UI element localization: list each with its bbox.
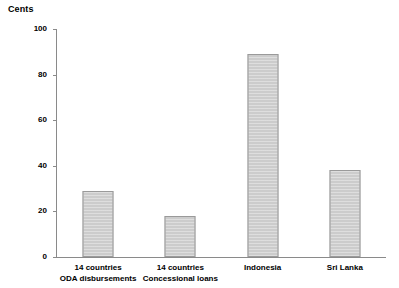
y-tick-0: 0 [53,257,57,258]
category-label-2-line1: Indonesia [244,263,281,272]
category-label-1-line2: Concessional loans [139,273,221,284]
category-label-3-line1: Sri Lanka [327,263,363,272]
bar-slot-1 [139,29,221,257]
category-label-0-line2: ODA disbursements [57,273,139,284]
bar-2[interactable] [247,54,278,257]
y-tick-label-60: 60 [38,115,47,124]
category-label-1-line1: 14 countries [157,263,204,272]
bar-chart: Cents 0 20 40 60 80 100 [0,0,399,288]
y-tick-label-0: 0 [43,252,47,261]
y-tick-label-40: 40 [38,161,47,170]
y-tick-label-20: 20 [38,206,47,215]
x-axis-line [57,257,386,258]
category-label-1: 14 countries Concessional loans [139,262,221,284]
category-label-0: 14 countries ODA disbursements [57,262,139,284]
y-tick-label-100: 100 [34,24,47,33]
bar-0[interactable] [83,191,114,257]
bar-3[interactable] [329,170,360,257]
plot-area: 0 20 40 60 80 100 [57,29,386,257]
category-label-3: Sri Lanka [304,262,386,273]
chart-title: Cents [8,4,34,14]
category-label-2: Indonesia [222,262,304,273]
category-label-0-line1: 14 countries [75,263,122,272]
bar-slot-3 [304,29,386,257]
bar-1[interactable] [165,216,196,257]
bar-slot-0 [57,29,139,257]
y-tick-label-80: 80 [38,70,47,79]
bar-slot-2 [222,29,304,257]
